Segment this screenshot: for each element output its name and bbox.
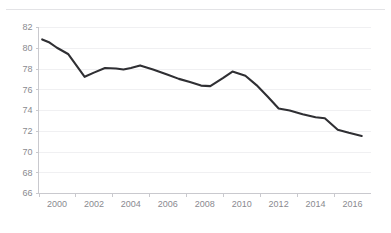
y-axis: 666870727476788082 [22, 22, 38, 198]
x-tick-label-2004: 2004 [121, 199, 141, 209]
x-tick-label-2014: 2014 [306, 199, 326, 209]
line-chart: 666870727476788082 200020022004200620082… [0, 0, 391, 233]
x-tick-label-2000: 2000 [47, 199, 67, 209]
y-tick-label-76: 76 [22, 85, 32, 95]
gridlines [39, 28, 372, 173]
x-tick-label-2016: 2016 [343, 199, 363, 209]
x-axis: 200020022004200620082010201220142016 [39, 193, 372, 209]
y-tick-label-80: 80 [22, 43, 32, 53]
x-tick-label-2006: 2006 [158, 199, 178, 209]
x-tick-label-2012: 2012 [269, 199, 289, 209]
y-tick-label-70: 70 [22, 147, 32, 157]
x-tick-label-2008: 2008 [195, 199, 215, 209]
x-tick-label-2002: 2002 [84, 199, 104, 209]
y-tick-label-74: 74 [22, 105, 32, 115]
x-tick-label-2010: 2010 [232, 199, 252, 209]
y-tick-label-78: 78 [22, 64, 32, 74]
data-series-line [42, 39, 362, 135]
y-tick-label-66: 66 [22, 188, 32, 198]
y-tick-label-68: 68 [22, 168, 32, 178]
y-tick-label-82: 82 [22, 22, 32, 32]
chart-plot-area: 666870727476788082 200020022004200620082… [0, 0, 391, 233]
y-tick-label-72: 72 [22, 126, 32, 136]
